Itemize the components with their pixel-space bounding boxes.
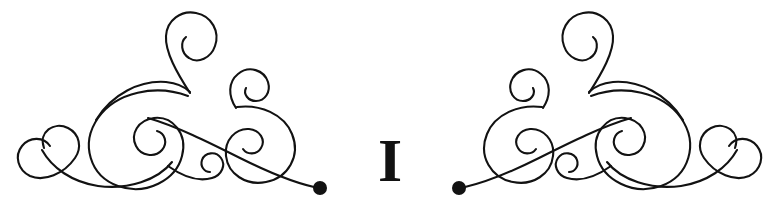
left-flourish-right-lobe	[226, 106, 295, 182]
right-flourish-tall-riser	[589, 82, 683, 120]
left-flourish-terminal-dot	[313, 181, 327, 195]
left-flourish-tall-riser	[96, 82, 190, 120]
ornament-page: I	[0, 0, 779, 210]
right-flourish-top-curl	[563, 12, 614, 93]
right-flourish	[452, 12, 761, 195]
left-flourish-top-curl	[166, 12, 217, 93]
right-flourish-main-sweep	[700, 126, 761, 178]
center-letter: I	[355, 122, 425, 198]
right-flourish-upper-right-curl	[510, 69, 549, 108]
right-flourish-terminal-dot	[452, 181, 466, 195]
right-flourish-right-lobe	[484, 106, 553, 182]
right-flourish-bottom-curl	[556, 153, 611, 179]
left-flourish-upper-right-curl	[230, 69, 269, 108]
left-flourish-main-sweep	[18, 126, 79, 178]
left-flourish-large-spiral	[89, 91, 188, 189]
left-flourish	[18, 12, 327, 195]
left-flourish-bottom-curl	[168, 153, 223, 179]
right-flourish-large-spiral	[591, 91, 690, 189]
